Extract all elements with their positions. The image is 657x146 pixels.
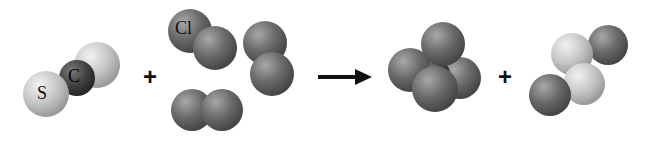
cl2-molecule [171,89,243,131]
s2cl2-molecule [529,25,628,116]
chlorine-atom [201,89,243,131]
chlorine-label: Cl [175,18,192,39]
plus-sign: + [498,63,512,91]
chlorine-atom [193,26,237,70]
reaction-diagram [0,0,657,146]
chlorine-atom [421,22,465,66]
chlorine-atom [250,52,294,96]
sulfur-label: S [37,83,47,104]
ccl4-molecule [388,22,481,112]
chlorine-atom [412,66,458,112]
chlorine-atom [588,25,628,65]
chlorine-atom [529,74,571,116]
reaction-arrow [318,69,372,85]
plus-sign: + [143,63,157,91]
cl2-molecule [243,21,294,96]
carbon-label: C [68,66,80,87]
